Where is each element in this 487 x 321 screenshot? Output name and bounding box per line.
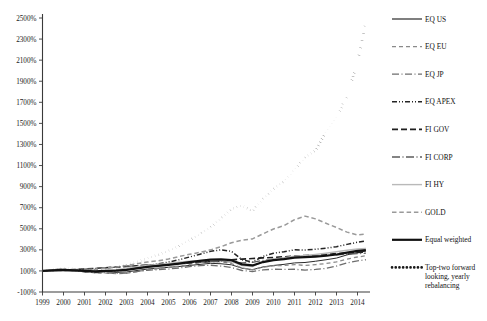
x-tick-label: 2005	[161, 299, 176, 307]
y-tick-label: 2100%	[16, 57, 36, 65]
series-line-top-two-forward-looking-yearly-rebalancing	[43, 22, 366, 271]
legend-label: GOLD	[425, 208, 446, 217]
legend-label: rebalancing	[425, 281, 460, 290]
legend-label: EQ EU	[425, 42, 447, 51]
y-tick-label: -100%	[17, 289, 36, 297]
line-chart-svg: 2500%2300%2100%1900%1700%1500%1300%1100%…	[0, 0, 487, 321]
y-tick-label: 700%	[20, 204, 37, 212]
chart-figure: 2500%2300%2100%1900%1700%1500%1300%1100%…	[0, 0, 487, 321]
x-tick-label: 2012	[308, 299, 323, 307]
x-tick-label: 2006	[182, 299, 197, 307]
y-tick-label: 2300%	[16, 36, 36, 44]
x-tick-label: 2007	[203, 299, 218, 307]
x-tick-label: 2001	[77, 299, 92, 307]
x-tick-label: 2009	[245, 299, 260, 307]
y-tick-label: 900%	[20, 183, 37, 191]
x-tick-label: 2003	[119, 299, 134, 307]
y-tick-label: 1900%	[16, 78, 36, 86]
chart-legend: EQ USEQ EUEQ JPEQ APEXFI GOVFI CORPFI HY…	[392, 15, 475, 290]
legend-label: Top-two forward	[425, 263, 475, 272]
x-tick-label: 2002	[98, 299, 113, 307]
x-tick-label: 1999	[35, 299, 50, 307]
legend-label: Equal weighted	[425, 235, 471, 244]
legend-label: EQ APEX	[425, 97, 456, 106]
legend-label: FI HY	[425, 180, 445, 189]
x-tick-label: 2010	[266, 299, 281, 307]
x-tick-label: 2004	[140, 299, 155, 307]
legend-label: looking, yearly	[425, 272, 470, 281]
y-tick-label: 1300%	[16, 141, 36, 149]
y-tick-label: 500%	[20, 225, 37, 233]
x-tick-label: 2013	[329, 299, 344, 307]
y-tick-label: 1500%	[16, 120, 36, 128]
legend-label: EQ JP	[425, 70, 444, 79]
x-tick-label: 2014	[350, 299, 365, 307]
y-tick-label: 300%	[20, 246, 37, 254]
x-tick-label: 2008	[224, 299, 239, 307]
legend-label: FI GOV	[425, 125, 450, 134]
x-tick-label: 2000	[56, 299, 71, 307]
y-tick-label: 1700%	[16, 99, 36, 107]
legend-label: FI CORP	[425, 153, 453, 162]
x-axis-ticks: 1999200020012002200320042005200620072008…	[35, 292, 365, 307]
series-group	[43, 22, 366, 273]
y-axis-ticks: 2500%2300%2100%1900%1700%1500%1300%1100%…	[16, 15, 42, 297]
y-tick-label: 2500%	[16, 15, 36, 23]
y-tick-label: 1100%	[16, 162, 36, 170]
legend-label: EQ US	[425, 15, 446, 24]
x-tick-label: 2011	[287, 299, 302, 307]
y-tick-label: 100%	[20, 268, 37, 276]
